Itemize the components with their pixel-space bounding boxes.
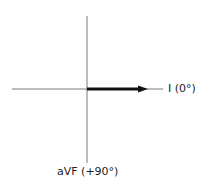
lead-avf-label: aVF (+90°) [57, 166, 118, 178]
vector-arrow [87, 86, 148, 93]
lead-i-label: I (0°) [168, 83, 196, 95]
